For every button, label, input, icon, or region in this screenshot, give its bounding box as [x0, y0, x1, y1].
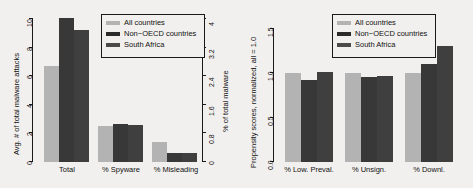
- right-chart-bar-downl-nonoecd: [421, 64, 437, 162]
- legend-item-all-countries: All countries: [337, 18, 431, 28]
- left-chart-bar-spyware-all: [98, 126, 113, 162]
- legend-item-all-countries: All countries: [106, 18, 200, 28]
- left-chart-y2-ticklabel-4: 4: [208, 22, 215, 26]
- left-chart-y-ticklabel-0: 0: [26, 161, 33, 165]
- legend-swatch-non-oecd: [337, 32, 351, 36]
- left-chart-category-label-misleading: % Misleading: [147, 166, 205, 174]
- left-chart-bar-misleading-southafrica: [182, 153, 197, 162]
- right-chart-y-axis-line: [273, 28, 274, 162]
- legend-swatch-all-countries: [106, 21, 120, 25]
- right-chart-y-ticklabel-10: 1.0: [267, 71, 274, 81]
- left-chart-y2-ticklabel-24: 2.4: [208, 77, 215, 87]
- left-chart-y2-tick-16: [202, 104, 206, 105]
- right-chart-y-axis-title: Propensity scores, normalized, all = 1.0: [250, 37, 258, 168]
- left-chart-y-ticklabel-4: 4: [26, 104, 33, 108]
- left-chart-bar-total-nonoecd: [59, 18, 74, 162]
- legend-swatch-south-africa: [106, 43, 120, 47]
- legend-swatch-non-oecd: [106, 32, 120, 36]
- chart-panel-right: Propensity scores, normalized, all = 1.0…: [237, 0, 473, 188]
- left-chart-category-label-spyware: % Spyware: [94, 166, 148, 174]
- legend-swatch-all-countries: [337, 21, 351, 25]
- right-chart-y-ticklabel-15: 1.5: [267, 27, 274, 37]
- left-chart-bar-spyware-nonoecd: [113, 124, 128, 162]
- left-chart-bar-total-all: [44, 66, 59, 162]
- left-chart-y2-ticklabel-16: 1.6: [208, 106, 215, 116]
- left-chart-y-axis-title: Avg. # of total malware attacks: [13, 53, 21, 155]
- left-chart-y-ticklabel-8: 8: [26, 47, 33, 51]
- right-chart-bar-unsign-all: [345, 73, 361, 162]
- left-chart-y2-tick-08: [202, 132, 206, 133]
- right-chart-category-label-downl: % Downl.: [403, 166, 455, 174]
- legend-label-south-africa: South Africa: [355, 41, 395, 49]
- left-chart-y2-ticklabel-32: 3.2: [208, 49, 215, 59]
- left-chart-y-axis-line: [32, 18, 33, 162]
- right-chart-bar-unsign-southafrica: [377, 76, 393, 162]
- legend-label-south-africa: South Africa: [124, 41, 164, 49]
- right-chart-bar-downl-all: [405, 73, 421, 162]
- legend-swatch-south-africa: [337, 43, 351, 47]
- right-chart-bar-lowpreval-all: [285, 73, 301, 162]
- right-chart-category-label-unsign: % Unsign.: [343, 166, 395, 174]
- left-chart-y-ticklabel-10: 10: [26, 19, 33, 27]
- right-chart-bar-downl-southafrica: [437, 46, 453, 162]
- left-chart-y-ticklabel-2: 2: [26, 132, 33, 136]
- legend-label-non-oecd: Non−OECD countries: [124, 30, 196, 38]
- right-chart-y-ticklabel-00: 0.0: [267, 160, 274, 170]
- legend-label-all-countries: All countries: [124, 19, 165, 27]
- left-chart-category-label-total: Total: [42, 166, 92, 174]
- right-chart-legend: All countries Non−OECD countries South A…: [332, 14, 436, 58]
- legend-item-non-oecd: Non−OECD countries: [337, 29, 431, 39]
- chart-panel-left: Avg. # of total malware attacks 0 2 4 6 …: [0, 0, 236, 188]
- right-chart-bar-lowpreval-nonoecd: [301, 80, 317, 162]
- legend-label-non-oecd: Non−OECD countries: [355, 30, 427, 38]
- left-chart-legend: All countries Non−OECD countries South A…: [101, 14, 205, 58]
- legend-label-all-countries: All countries: [355, 19, 396, 27]
- right-chart-bar-unsign-nonoecd: [361, 77, 377, 162]
- left-chart-y2-axis-title: % of total malware: [222, 70, 230, 132]
- right-chart-y-ticklabel-05: 0.5: [267, 116, 274, 126]
- left-chart-bar-misleading-nonoecd: [167, 153, 182, 162]
- left-chart-y-ticklabel-6: 6: [26, 75, 33, 79]
- right-chart-bar-lowpreval-southafrica: [317, 72, 333, 162]
- legend-item-south-africa: South Africa: [106, 40, 200, 50]
- left-chart-bar-spyware-southafrica: [128, 125, 143, 162]
- left-chart-y2-tick-0: [202, 161, 206, 162]
- left-chart-bar-total-southafrica: [74, 30, 89, 162]
- left-chart-y2-ticklabel-08: 0.8: [208, 134, 215, 144]
- right-chart-category-label-lowpreval: % Low. Preval.: [279, 166, 339, 174]
- left-chart-bar-misleading-all: [152, 142, 167, 162]
- legend-item-non-oecd: Non−OECD countries: [106, 29, 200, 39]
- left-chart-y2-tick-24: [202, 75, 206, 76]
- figure-canvas: Avg. # of total malware attacks 0 2 4 6 …: [0, 0, 473, 188]
- left-chart-y2-ticklabel-0: 0: [208, 161, 215, 165]
- legend-item-south-africa: South Africa: [337, 40, 431, 50]
